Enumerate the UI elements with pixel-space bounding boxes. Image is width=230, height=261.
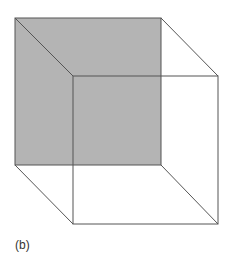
figure-label: (b) — [15, 238, 30, 252]
edge-bottom-right — [161, 165, 218, 224]
edge-bottom-left — [15, 165, 73, 224]
edge-top-right — [161, 18, 218, 76]
cube-diagram — [0, 0, 230, 261]
